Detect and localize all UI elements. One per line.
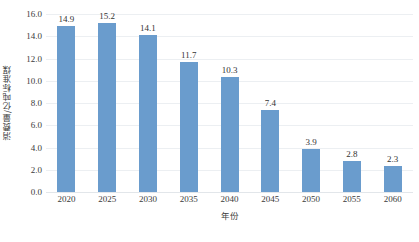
y-axis-tick-label: 16.0: [26, 9, 42, 19]
y-axis-tick-label: 8.0: [31, 98, 42, 108]
bar-group: 2.8: [331, 14, 372, 192]
y-axis-tick-label: 2.0: [31, 165, 42, 175]
y-axis-title-label: 消费量/亿吨标准煤: [4, 65, 13, 140]
bar-chart-figure: 消费量/亿吨标准煤 16.014.012.010.08.06.04.02.00.…: [0, 0, 419, 242]
bar[interactable]: 7.4: [261, 110, 279, 192]
bar-value-label: 14.9: [59, 14, 75, 24]
bar[interactable]: 14.1: [139, 35, 157, 192]
y-axis-tick-labels: 16.014.012.010.08.06.04.02.00.0: [16, 14, 44, 192]
gridline: [46, 192, 413, 193]
bar-group: 3.9: [291, 14, 332, 192]
bar-group: 15.2: [87, 14, 128, 192]
bar-value-label: 14.1: [140, 23, 156, 33]
plot-area: 14.915.214.111.710.37.43.92.82.3: [46, 14, 413, 192]
bar-value-label: 11.7: [181, 50, 196, 60]
x-axis-tick-label: 2050: [291, 194, 332, 204]
bar[interactable]: 10.3: [221, 77, 239, 192]
x-axis-tick-label: 2020: [46, 194, 87, 204]
bar-group: 14.1: [128, 14, 169, 192]
bar-group: 2.3: [372, 14, 413, 192]
bar[interactable]: 2.8: [343, 161, 361, 192]
bar-group: 7.4: [250, 14, 291, 192]
x-axis-tick-label: 2035: [168, 194, 209, 204]
bar[interactable]: 3.9: [302, 149, 320, 192]
x-axis-tick-label: 2055: [331, 194, 372, 204]
y-axis-title: 消费量/亿吨标准煤: [0, 0, 16, 205]
x-axis-tick-labels: 202020252030203520402045205020552060: [46, 194, 413, 208]
x-axis-tick-label: 2060: [372, 194, 413, 204]
bar-value-label: 2.8: [346, 149, 357, 159]
bar-value-label: 7.4: [265, 98, 276, 108]
bar-group: 11.7: [168, 14, 209, 192]
x-axis-tick-label: 2040: [209, 194, 250, 204]
y-axis-tick-label: 14.0: [26, 31, 42, 41]
bar-value-label: 10.3: [222, 65, 238, 75]
y-axis-tick-label: 10.0: [26, 76, 42, 86]
x-axis-tick-label: 2030: [128, 194, 169, 204]
bar[interactable]: 11.7: [180, 62, 198, 192]
bar-group: 10.3: [209, 14, 250, 192]
bars-layer: 14.915.214.111.710.37.43.92.82.3: [46, 14, 413, 192]
bar-group: 14.9: [46, 14, 87, 192]
y-axis-tick-label: 6.0: [31, 120, 42, 130]
x-axis-tick-label: 2045: [250, 194, 291, 204]
bar[interactable]: 15.2: [98, 23, 116, 192]
bar[interactable]: 14.9: [57, 26, 75, 192]
bar-value-label: 3.9: [305, 137, 316, 147]
x-axis-title-label: 年份: [46, 209, 413, 221]
x-axis-tick-label: 2025: [87, 194, 128, 204]
y-axis-tick-label: 12.0: [26, 54, 42, 64]
bar-value-label: 2.3: [387, 154, 398, 164]
y-axis-tick-label: 0.0: [31, 187, 42, 197]
bar-value-label: 15.2: [99, 11, 115, 21]
y-axis-tick-label: 4.0: [31, 143, 42, 153]
bar[interactable]: 2.3: [384, 166, 402, 192]
